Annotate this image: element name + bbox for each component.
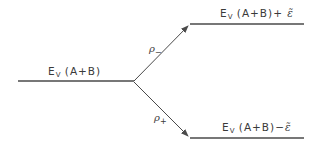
epsilon-shift: ε̃: [285, 121, 292, 133]
operator-plus: +: [273, 7, 283, 19]
energy-symbol: E: [220, 7, 228, 19]
energy-symbol: E: [222, 121, 230, 133]
rho-minus-label: ρ−: [149, 43, 162, 54]
epsilon-shift: ε̃: [287, 7, 294, 19]
initial-level-label: EV (A+B): [48, 65, 101, 77]
lower-level-label: EV (A+B)−ε̃: [222, 121, 292, 133]
rho-plus-label: ρ+: [154, 112, 167, 123]
operator-minus: −: [275, 121, 285, 133]
rho-subscript: −: [155, 48, 162, 57]
upper-level-label: EV (A+B)+ ε̃: [220, 7, 294, 19]
energy-subscript: V: [228, 13, 233, 21]
energy-argument: (A+B): [237, 7, 273, 19]
rho-symbol: ρ: [149, 43, 155, 54]
energy-subscript: V: [56, 71, 61, 79]
energy-subscript: V: [230, 127, 235, 135]
energy-argument: (A+B): [65, 65, 101, 77]
energy-argument: (A+B): [239, 121, 275, 133]
rho-subscript: +: [160, 117, 167, 126]
energy-symbol: E: [48, 65, 56, 77]
transition-arrow-down: [134, 82, 188, 136]
rho-symbol: ρ: [154, 112, 160, 123]
